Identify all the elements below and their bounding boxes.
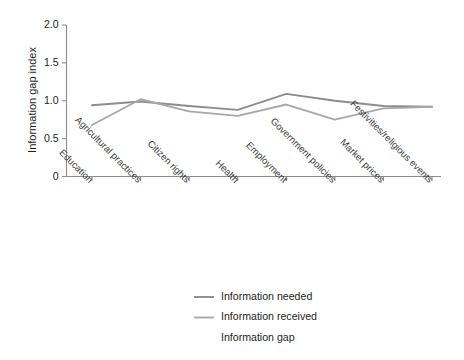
x-axis-label-group: Citizen rights [146, 138, 193, 185]
y-axis-tick-label: 0 [53, 170, 59, 182]
y-axis-tick-label: 1.0 [44, 94, 59, 106]
x-axis-label-group: Education [57, 147, 95, 185]
x-axis-category-label: Market prices [338, 136, 387, 185]
x-axis-category-label: Education [57, 147, 95, 185]
series-line-0 [92, 94, 432, 110]
x-axis-label-group: Health [214, 158, 241, 185]
x-axis-label-group: Market prices [338, 136, 387, 185]
line-chart: Information gap index 00.51.01.52.0 Educ… [0, 0, 464, 360]
y-axis-title: Information gap index [26, 47, 38, 153]
chart-figure: Information gap index 00.51.01.52.0 Educ… [0, 0, 464, 360]
x-axis-label-group: Festivities/religious events [348, 98, 435, 185]
x-axis-label-group: Employment [244, 139, 290, 185]
y-axis-tick-label: 0.5 [44, 132, 59, 144]
x-axis-category-labels: EducationAgricultural practicesCitizen r… [57, 98, 435, 185]
x-axis-category-label: Citizen rights [146, 138, 193, 185]
x-axis-category-label: Health [214, 158, 241, 185]
series-line-1 [92, 99, 432, 125]
chart-legend: Information neededInformation receivedIn… [194, 290, 317, 343]
y-axis-tick-labels: 00.51.01.52.0 [44, 18, 59, 182]
legend-label-2: Information gap [221, 331, 295, 343]
y-axis-tick-label: 1.5 [44, 56, 59, 68]
y-axis-tick-label: 2.0 [44, 18, 59, 30]
legend-label-1: Information received [221, 310, 317, 322]
data-series-group [92, 94, 432, 125]
x-axis-category-label: Employment [244, 139, 290, 185]
legend-label-0: Information needed [221, 290, 312, 302]
x-axis-category-label: Festivities/religious events [348, 98, 435, 185]
